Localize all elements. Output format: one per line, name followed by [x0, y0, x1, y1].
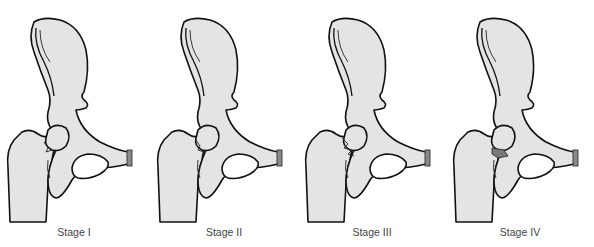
stage-label: Stage II	[150, 226, 298, 238]
stage-2-panel: Stage II	[150, 0, 298, 247]
stage-4-panel: Stage IV	[446, 0, 594, 247]
stage-label: Stage III	[298, 226, 446, 238]
stage-3-panel: Stage III	[298, 0, 446, 247]
stage-label: Stage IV	[446, 226, 594, 238]
hip-illustration-stage-1	[0, 0, 148, 225]
stage-label: Stage I	[0, 226, 148, 238]
hip-illustration-stage-3	[298, 0, 446, 225]
hip-illustration-stage-4	[446, 0, 594, 225]
stage-1-panel: Stage I	[0, 0, 148, 247]
hip-illustration-stage-2	[150, 0, 298, 225]
